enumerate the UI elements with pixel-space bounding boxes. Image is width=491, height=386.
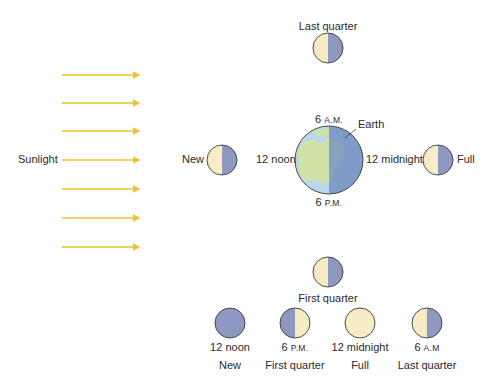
first-quarter-label: First quarter xyxy=(298,292,357,304)
phase-time: 6 A.M xyxy=(414,341,439,353)
earth-bottom-time: 6 P.M. xyxy=(316,196,343,208)
phase-name: Full xyxy=(351,359,369,371)
earth-top-time: 6 A.M. xyxy=(315,113,343,125)
phase-name: First quarter xyxy=(265,359,324,371)
sunlight-label: Sunlight xyxy=(18,153,58,165)
moon-first-quarter-orbit xyxy=(313,257,343,287)
phase-name: New xyxy=(219,359,241,371)
moon-last-quarter-orbit xyxy=(313,33,343,63)
last-quarter-label: Last quarter xyxy=(299,20,358,32)
phase-last-quarter-icon xyxy=(412,308,442,338)
phase-time: 12 midnight xyxy=(332,341,389,353)
earth-left-time: 12 noon xyxy=(256,153,296,165)
phase-time: 6 P.M. xyxy=(282,341,309,353)
phase-first-quarter-icon xyxy=(280,308,310,338)
moon-full-orbit xyxy=(423,145,453,175)
phase-time: 12 noon xyxy=(210,341,250,353)
moon-new-orbit xyxy=(207,145,237,175)
earth-globe xyxy=(295,126,363,194)
sunlight-arrows xyxy=(62,75,139,247)
new-label: New xyxy=(182,153,204,165)
phase-name: Last quarter xyxy=(398,359,457,371)
phase-new-icon xyxy=(215,308,245,338)
moon-phases-diagram xyxy=(0,0,491,386)
earth-right-time: 12 midnight xyxy=(366,153,423,165)
phase-full-icon xyxy=(345,308,375,338)
earth-label: Earth xyxy=(358,118,384,130)
full-label: Full xyxy=(457,153,475,165)
